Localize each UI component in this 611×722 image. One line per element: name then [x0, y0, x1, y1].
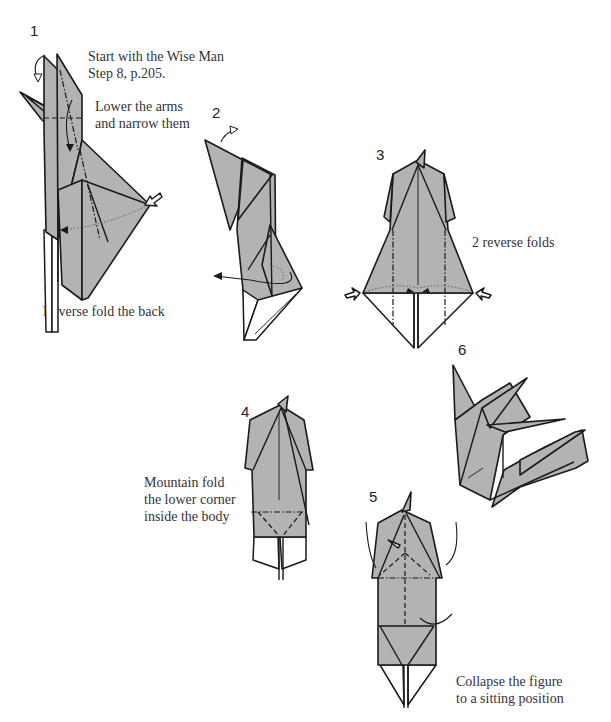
step-5-figure — [366, 492, 457, 708]
step-6-figure — [453, 365, 588, 507]
step-4-figure — [245, 396, 313, 580]
step-3-figure — [345, 150, 491, 348]
origami-diagrams — [0, 0, 611, 722]
step-2-figure — [205, 126, 302, 340]
step-1-figure — [20, 54, 162, 332]
